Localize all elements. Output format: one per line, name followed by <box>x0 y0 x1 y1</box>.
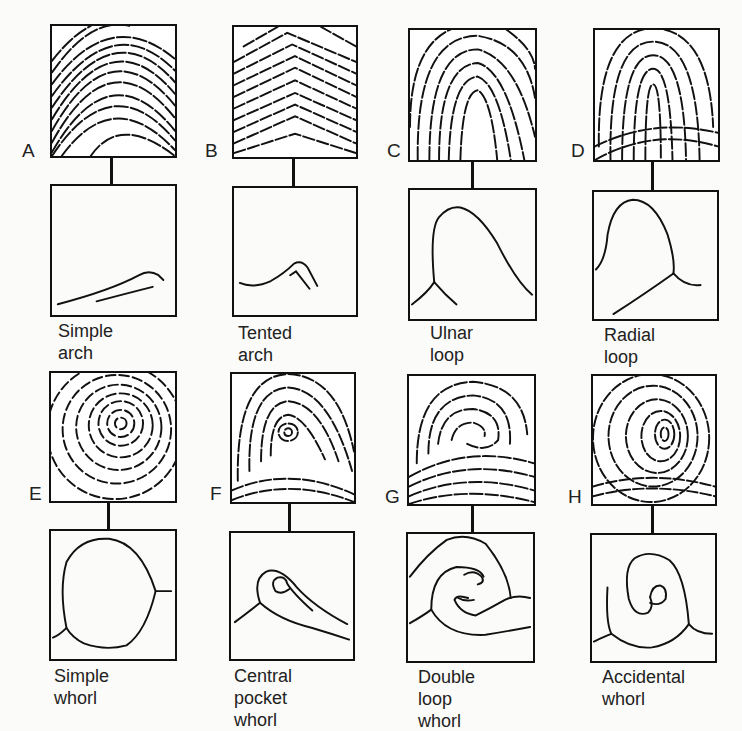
ridge-texture <box>232 374 354 502</box>
loop-diagram <box>410 190 535 319</box>
panel-letter: F <box>210 483 222 505</box>
connector-line <box>651 506 654 533</box>
ridge-texture <box>595 30 718 160</box>
connector-line <box>107 503 110 529</box>
pattern-caption: Accidental whorl <box>602 666 685 710</box>
pattern-caption: Double loop whorl <box>418 666 475 731</box>
panel-letter: G <box>385 486 400 508</box>
pattern-caption: Tented arch <box>238 322 292 366</box>
ridge-texture <box>234 27 356 157</box>
whorl-diagram <box>408 534 533 661</box>
panel-letter: A <box>22 140 35 162</box>
arch-diagram <box>234 188 356 315</box>
connector-line <box>110 158 113 184</box>
schematic-accidental-whorl <box>590 533 717 663</box>
pattern-caption: Central pocket whorl <box>234 665 292 731</box>
fingerprint-image-accidental-whorl <box>591 374 717 506</box>
ridge-texture <box>52 26 175 156</box>
connector-line <box>471 506 474 532</box>
whorl-diagram <box>51 531 175 659</box>
pattern-caption: Ulnar loop <box>430 322 473 366</box>
ridge-texture <box>409 376 534 504</box>
fingerprint-image-simple-whorl <box>49 371 177 503</box>
fingerprint-image-double-loop-whorl <box>407 374 536 506</box>
schematic-ulnar-loop <box>408 188 537 321</box>
schematic-central-pocket-whorl <box>229 531 355 661</box>
schematic-tented-arch <box>232 186 358 317</box>
pattern-caption: Radial loop <box>604 324 655 368</box>
connector-line <box>471 160 474 188</box>
connector-line <box>292 159 295 186</box>
fingerprint-image-ulnar-loop <box>408 28 537 162</box>
schematic-radial-loop <box>592 190 719 321</box>
panel-letter: B <box>205 140 218 162</box>
panel-letter: E <box>29 483 42 505</box>
loop-diagram <box>594 192 717 319</box>
schematic-double-loop-whorl <box>406 532 535 663</box>
schematic-simple-arch <box>50 184 177 317</box>
connector-line <box>651 162 654 190</box>
panel-letter: H <box>568 486 582 508</box>
panel-letter: C <box>387 140 401 162</box>
panel-letter: D <box>571 140 585 162</box>
pattern-caption: Simple whorl <box>54 665 109 709</box>
whorl-diagram <box>231 533 353 659</box>
pattern-caption: Simple arch <box>58 320 113 364</box>
ridge-texture <box>51 373 175 501</box>
fingerprint-image-tented-arch <box>232 25 358 159</box>
fingerprint-image-central-pocket-whorl <box>230 372 356 504</box>
ridge-texture <box>593 376 715 504</box>
whorl-diagram <box>592 535 715 661</box>
fingerprint-image-simple-arch <box>50 24 177 158</box>
arch-diagram <box>52 186 175 315</box>
fingerprint-image-radial-loop <box>593 28 720 162</box>
schematic-simple-whorl <box>49 529 177 661</box>
ridge-texture <box>410 30 535 160</box>
connector-line <box>288 504 291 531</box>
